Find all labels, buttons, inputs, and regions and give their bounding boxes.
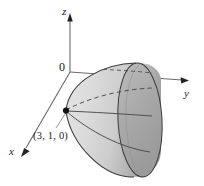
z-axis <box>67 13 73 72</box>
paraboloid-figure <box>0 0 204 186</box>
point-coordinate-label: (3, 1, 0) <box>33 131 68 142</box>
leader-line <box>56 112 67 128</box>
x-axis <box>21 72 70 157</box>
marked-point-dot <box>63 107 69 113</box>
paraboloid-surface <box>66 62 165 178</box>
x-axis-label: x <box>9 146 14 157</box>
origin-label: 0 <box>59 61 65 73</box>
z-axis-label: z <box>62 6 66 17</box>
figure-container: z y x 0 (3, 1, 0) <box>0 0 204 186</box>
y-axis-label: y <box>184 88 189 99</box>
